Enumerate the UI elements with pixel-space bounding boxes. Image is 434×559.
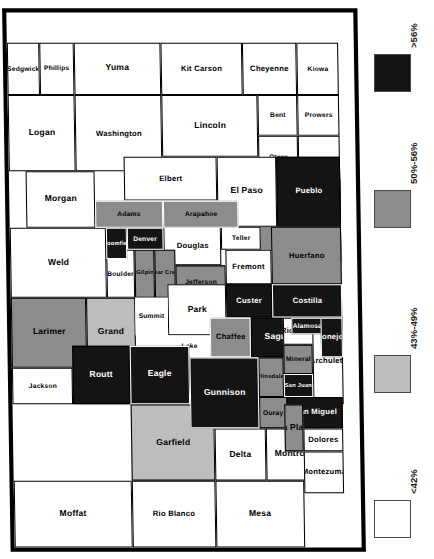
county-label: Denver xyxy=(133,235,157,242)
county-label: Cheyenne xyxy=(250,64,289,72)
county-label: Mesa xyxy=(249,509,271,518)
legend-label: 50%-56% xyxy=(408,124,419,184)
county-label: Broomfield xyxy=(106,240,127,246)
county-label: Costilla xyxy=(292,296,322,304)
county-la-plata[interactable]: La Plata xyxy=(284,404,304,451)
county-label: Douglas xyxy=(176,241,208,249)
legend-swatch-black xyxy=(374,54,411,92)
county-label: Park xyxy=(187,305,207,314)
county-phillips[interactable]: Phillips xyxy=(39,42,74,94)
county-label: Eagle xyxy=(148,370,172,379)
legend-swatch-mid xyxy=(374,190,411,228)
county-label: Fremont xyxy=(232,262,264,270)
county-label: Mineral xyxy=(286,355,311,362)
county-label: Arapahoe xyxy=(184,210,217,217)
county-morgan[interactable]: Morgan xyxy=(26,171,96,227)
county-kit-carson[interactable]: Kit Carson xyxy=(160,42,242,94)
county-label: Sedgwick xyxy=(7,65,40,72)
county-label: Gunnison xyxy=(204,388,246,397)
county-label: Grand xyxy=(98,328,124,337)
county-label: Delta xyxy=(229,450,251,459)
county-eagle[interactable]: Eagle xyxy=(130,345,190,404)
county-label: Logan xyxy=(28,128,55,137)
county-label: Bent xyxy=(270,111,286,118)
county-label: Phillips xyxy=(44,65,70,72)
map-rotation-wrapper: Sedgwick Phillips Yuma Kit Carson Cheyen… xyxy=(2,8,366,551)
county-arapahoe[interactable]: Arapahoe xyxy=(163,200,239,227)
county-label: San Juan xyxy=(285,382,312,388)
county-label: Clear Creek xyxy=(154,270,176,276)
county-label: Boulder xyxy=(107,270,134,277)
county-label: Morgan xyxy=(44,195,76,204)
county-label: Alamosa xyxy=(292,322,321,329)
county-yuma[interactable]: Yuma xyxy=(74,42,162,94)
county-label: Gilpin xyxy=(136,270,154,276)
county-label: La Plata xyxy=(284,423,304,432)
county-alamosa[interactable]: Alamosa xyxy=(291,317,323,334)
county-sedgwick[interactable]: Sedgwick xyxy=(7,42,40,94)
county-label: Montezuma xyxy=(304,468,344,476)
county-label: Custer xyxy=(236,296,262,304)
county-label: Conejos xyxy=(320,333,343,341)
county-label: Pueblo xyxy=(295,187,322,195)
county-moffat[interactable]: Moffat xyxy=(14,480,133,547)
county-label: Elbert xyxy=(159,174,182,182)
county-custer[interactable]: Custer xyxy=(226,284,273,317)
county-rio-blanco[interactable]: Rio Blanco xyxy=(132,480,217,547)
county-jackson[interactable]: Jackson xyxy=(12,367,73,404)
county-summit[interactable]: Summit xyxy=(135,297,168,335)
county-gunnison[interactable]: Gunnison xyxy=(189,357,259,428)
county-label: Moffat xyxy=(60,509,87,518)
county-denver[interactable]: Denver xyxy=(127,227,164,249)
legend-swatch-white xyxy=(374,500,411,538)
county-bent[interactable]: Bent xyxy=(257,95,297,136)
county-logan[interactable]: Logan xyxy=(8,95,76,171)
county-delta[interactable]: Delta xyxy=(215,428,267,480)
map-canvas: Sedgwick Phillips Yuma Kit Carson Cheyen… xyxy=(0,0,368,559)
county-broomfield[interactable]: Broomfield xyxy=(106,227,127,258)
county-elbert[interactable]: Elbert xyxy=(124,156,218,200)
county-label: Huerfano xyxy=(289,251,325,259)
legend-label: 43%-49% xyxy=(408,289,419,349)
county-label: El Paso xyxy=(231,187,264,196)
county-conejos[interactable]: Conejos xyxy=(320,317,343,357)
county-kiowa[interactable]: Kiowa xyxy=(296,42,339,94)
county-chaffee[interactable]: Chaffee xyxy=(210,317,251,357)
county-hinsdale[interactable]: Hinsdale xyxy=(258,357,284,397)
county-prowers[interactable]: Prowers xyxy=(297,95,339,136)
county-adams[interactable]: Adams xyxy=(95,200,163,227)
county-teller[interactable]: Teller xyxy=(221,226,261,249)
county-label: Jackson xyxy=(28,382,56,389)
county-pueblo[interactable]: Pueblo xyxy=(276,156,341,226)
county-mesa[interactable]: Mesa xyxy=(215,480,305,547)
county-lincoln[interactable]: Lincoln xyxy=(161,95,258,157)
county-san-juan[interactable]: San Juan xyxy=(284,374,314,397)
choropleth-map-figure: Sedgwick Phillips Yuma Kit Carson Cheyen… xyxy=(0,0,434,559)
county-label: Summit xyxy=(139,313,165,320)
legend-label: <42% xyxy=(408,434,419,494)
county-label: Washington xyxy=(95,129,141,137)
county-weld[interactable]: Weld xyxy=(10,227,107,297)
county-label: Ouray xyxy=(263,409,283,416)
county-fremont[interactable]: Fremont xyxy=(225,249,272,283)
county-montezuma[interactable]: Montezuma xyxy=(304,451,344,493)
legend-label: >56% xyxy=(408,0,419,48)
county-costilla[interactable]: Costilla xyxy=(272,284,343,317)
county-label: Routt xyxy=(90,370,114,379)
county-label: Kit Carson xyxy=(181,64,222,72)
legend-swatch-light xyxy=(374,355,411,393)
county-label: Chaffee xyxy=(215,333,245,341)
county-huerfano[interactable]: Huerfano xyxy=(271,226,342,283)
county-label: Garfield xyxy=(156,438,190,447)
county-label: Yuma xyxy=(106,64,130,73)
county-label: Kiowa xyxy=(307,65,328,72)
county-gilpin[interactable]: Gilpin xyxy=(134,249,155,297)
county-cheyenne[interactable]: Cheyenne xyxy=(242,42,297,94)
county-label: Rio Blanco xyxy=(153,510,196,518)
map-legend: >56% 50%-56% 43%-49% <42% xyxy=(368,0,434,559)
county-routt[interactable]: Routt xyxy=(72,345,130,404)
county-label: Weld xyxy=(48,258,69,267)
county-mineral[interactable]: Mineral xyxy=(283,344,313,373)
county-dolores[interactable]: Dolores xyxy=(303,428,343,451)
county-label: Archuleta xyxy=(312,356,344,364)
